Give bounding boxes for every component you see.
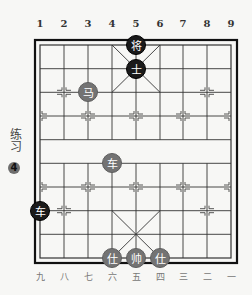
position-markers [42, 87, 229, 215]
red-advisor-left-piece[interactable]: 仕 [102, 248, 122, 268]
column-label-cn-9: 九 [32, 270, 48, 283]
black-general-piece[interactable]: 将 [126, 35, 146, 55]
column-label-cn-6: 六 [104, 270, 120, 283]
column-label-cn-1: 一 [223, 270, 239, 283]
column-label-cn-2: 二 [199, 270, 215, 283]
column-label-cn-7: 七 [80, 270, 96, 283]
black-chariot-piece[interactable]: 车 [30, 201, 50, 221]
red-general-piece[interactable]: 帅 [126, 248, 146, 268]
column-label-cn-8: 八 [56, 270, 72, 283]
column-label-cn-4: 四 [152, 270, 168, 283]
column-label-cn-5: 五 [128, 270, 144, 283]
red-advisor-right-piece[interactable]: 仕 [150, 248, 170, 268]
column-label-cn-3: 三 [175, 270, 191, 283]
black-advisor-piece[interactable]: 士 [126, 59, 146, 79]
